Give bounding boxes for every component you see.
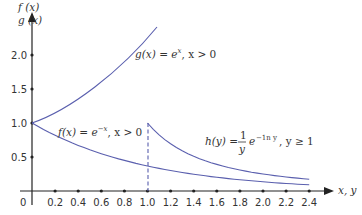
- g-curve: [32, 27, 157, 123]
- y-tick-label: 2.0: [11, 50, 27, 61]
- svg-text:, y ≥ 1: , y ≥ 1: [279, 135, 314, 147]
- y-tick-label: 1.5: [11, 84, 27, 95]
- origin-label: 0: [20, 197, 26, 208]
- y-tick-label: 0.5: [11, 152, 27, 163]
- svg-text:e: e: [249, 135, 255, 147]
- x-tick-label: 0.8: [116, 197, 132, 208]
- svg-text:y: y: [238, 143, 246, 155]
- axes: [20, 12, 334, 205]
- svg-text:−1n y: −1n y: [256, 134, 277, 142]
- y-axis-title-1: f (x): [17, 1, 39, 13]
- chart: 0.20.40.60.81.01.21.41.61.82.02.22.4 0.5…: [0, 0, 362, 215]
- svg-text:h(y) =: h(y) =: [205, 135, 238, 147]
- y-ticks: 0.51.01.52.0: [11, 50, 34, 163]
- y-axis-title-2: g (x): [18, 14, 42, 26]
- svg-text:1: 1: [240, 129, 247, 141]
- h-label: h(y) = 1 y e −1n y , y ≥ 1: [205, 129, 314, 155]
- x-tick-label: 1.0: [140, 197, 156, 208]
- x-tick-label: 1.2: [163, 197, 179, 208]
- x-tick-label: 0.4: [70, 197, 86, 208]
- f-label: f(x) = e−x, x > 0: [57, 125, 142, 138]
- x-tick-label: 1.8: [232, 197, 248, 208]
- y-tick-label: 1.0: [11, 118, 27, 129]
- x-ticks: 0.20.40.60.81.01.21.41.61.82.02.22.4: [47, 189, 317, 208]
- x-axis-title: x, y: [338, 184, 358, 196]
- x-axis-arrow-icon: [324, 187, 334, 195]
- x-tick-label: 1.6: [209, 197, 225, 208]
- x-tick-label: 2.0: [255, 197, 271, 208]
- x-tick-label: 2.4: [301, 197, 317, 208]
- g-label: g(x) = ex, x > 0: [135, 47, 216, 60]
- x-tick-label: 2.2: [278, 197, 294, 208]
- x-tick-label: 0.2: [47, 197, 63, 208]
- x-tick-label: 1.4: [186, 197, 202, 208]
- x-tick-label: 0.6: [93, 197, 109, 208]
